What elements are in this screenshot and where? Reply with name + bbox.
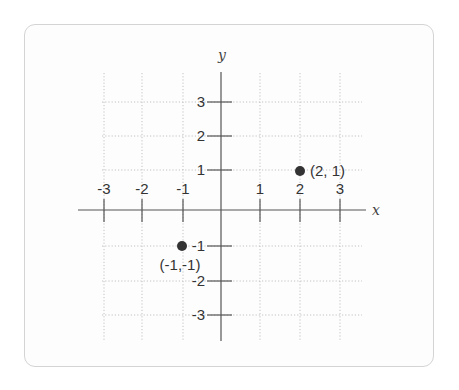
grid-lines [102,73,362,340]
x-tick-label: 1 [256,180,264,197]
y-tick-label: -2 [192,272,205,289]
y-tick-label: 3 [197,93,205,110]
x-tick-label: 3 [336,180,344,197]
point-label: (-1,-1) [160,256,201,273]
plotted-points: (2, 1)(-1,-1) [160,162,345,273]
x-tick-label: -3 [97,180,110,197]
y-tick-label: 1 [197,161,205,178]
y-tick-label: -3 [192,306,205,323]
x-tick-label: -2 [135,180,148,197]
point-marker [295,166,305,176]
point-marker [177,241,187,251]
y-tick-label: -1 [192,237,205,254]
coordinate-plane: x y -3-2-1123321-1-2-3 (2, 1)(-1,-1) [0,0,459,390]
x-tick-label: -1 [176,180,189,197]
y-axis-label: y [217,47,227,63]
x-axis-label: x [372,202,380,218]
x-tick-label: 2 [296,180,304,197]
y-tick-label: 2 [197,127,205,144]
point-label: (2, 1) [310,162,345,179]
